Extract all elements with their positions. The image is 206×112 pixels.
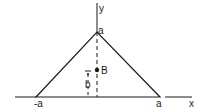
diagram-svg: y x a -a a B b — [0, 0, 206, 112]
y-axis-label: y — [99, 3, 104, 14]
height-b-label: b — [85, 79, 91, 90]
point-b-marker — [95, 68, 99, 72]
right-vertex-label: a — [156, 98, 162, 109]
point-b-label: B — [101, 65, 108, 76]
apex-label: a — [98, 25, 104, 36]
triangle-diagram: y x a -a a B b — [0, 0, 206, 112]
triangle — [36, 32, 160, 97]
left-vertex-label: -a — [34, 98, 43, 109]
x-axis-label: x — [189, 98, 194, 109]
